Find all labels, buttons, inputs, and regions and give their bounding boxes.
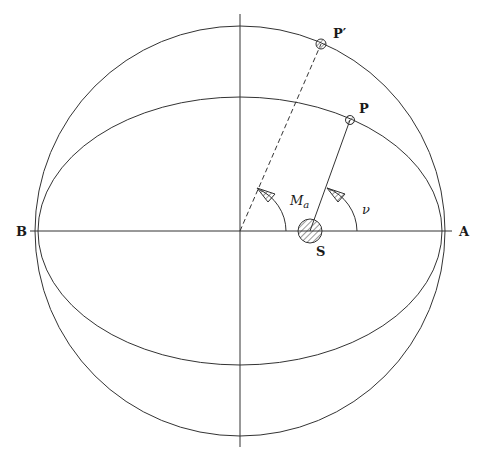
- point-p-prime-icon: [316, 39, 326, 49]
- mean-anomaly-subscript: a: [303, 199, 309, 210]
- label-a: A: [458, 224, 470, 239]
- mean-anomaly-symbol: M: [289, 193, 304, 208]
- label-true-anomaly: ν: [362, 202, 370, 217]
- planet-p-icon: [346, 116, 355, 125]
- sun-to-planet-line: [310, 120, 350, 231]
- label-b: B: [16, 224, 27, 239]
- label-p: P: [359, 101, 369, 116]
- label-s: S: [316, 244, 325, 259]
- true-anomaly-arrowhead-icon: [327, 188, 345, 202]
- mean-anomaly-arrowhead-icon: [257, 188, 275, 202]
- sun-body-icon: [298, 219, 322, 243]
- label-p-prime: P′: [333, 26, 347, 41]
- label-mean-anomaly: Ma: [289, 193, 309, 210]
- orbit-diagram: P′ P S A B Ma ν: [0, 0, 486, 459]
